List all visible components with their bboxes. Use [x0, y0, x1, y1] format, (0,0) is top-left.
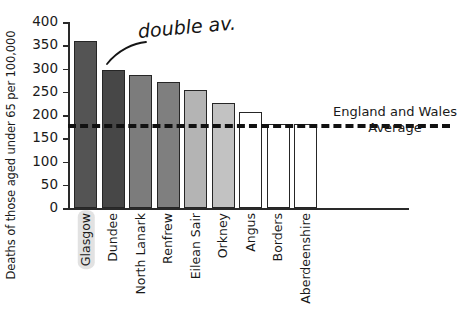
y-axis-tick-label: 250	[32, 85, 58, 99]
y-axis-tick-mark	[63, 92, 68, 94]
average-line-legend: England and Wales Average	[328, 104, 462, 135]
x-axis-label-angus: Angus	[239, 210, 262, 322]
y-axis-tick-mark	[63, 115, 68, 117]
y-axis-tick-label: 350	[32, 39, 58, 53]
y-axis-tick-mark	[63, 69, 68, 71]
bar-eilean-sair[interactable]	[184, 90, 207, 208]
bar-north-lanark[interactable]	[129, 75, 152, 208]
bar-renfrew[interactable]	[157, 82, 180, 208]
x-axis-label-aberdeenshire: Aberdeenshire	[294, 210, 317, 322]
legend-label-line-1: England and Wales	[328, 104, 462, 119]
x-axis-label-dundee: Dundee	[102, 210, 125, 322]
y-axis-tick-label: 100	[32, 155, 58, 169]
y-axis-tick-label: 400	[32, 15, 58, 29]
y-axis-title-text: Deaths of those aged under 65 per 100,00…	[4, 31, 18, 280]
y-axis-tick-label: 150	[32, 132, 58, 146]
y-axis-tick-label: 200	[32, 108, 58, 122]
x-axis-label-text: Borders	[270, 210, 287, 264]
x-axis-label-eilean-sair: Eilean Sair	[184, 210, 207, 322]
x-axis-label-orkney: Orkney	[212, 210, 235, 322]
x-axis-label-text: Dundee	[105, 210, 122, 265]
y-axis-tick-labels: 050100150200250300350400	[22, 14, 64, 210]
x-axis-label-text: Angus	[242, 210, 259, 255]
x-axis-label-text: Glasgow	[77, 210, 94, 269]
bar-aberdeenshire[interactable]	[294, 124, 317, 208]
y-axis-tick-mark	[63, 138, 68, 140]
x-axis-label-text: Eilean Sair	[187, 210, 204, 282]
x-axis-label-borders: Borders	[267, 210, 290, 322]
x-axis-label-renfrew: Renfrew	[157, 210, 180, 322]
x-axis-label-text: North Lanark	[132, 210, 149, 298]
bar-dundee[interactable]	[102, 70, 125, 208]
x-axis-category-labels: GlasgowDundeeNorth LanarkRenfrewEilean S…	[68, 210, 330, 327]
x-axis-label-north-lanark: North Lanark	[129, 210, 152, 322]
y-axis-tick-mark	[63, 162, 68, 164]
x-axis-label-text: Orkney	[215, 210, 232, 261]
bar-orkney[interactable]	[212, 103, 235, 208]
y-axis-tick-label: 0	[49, 201, 58, 215]
y-axis-tick-mark	[63, 185, 68, 187]
y-axis-tick-label: 50	[41, 178, 58, 192]
y-axis-tick-label: 300	[32, 62, 58, 76]
bar-chart: Deaths of those aged under 65 per 100,00…	[0, 0, 463, 327]
x-axis-label-text: Renfrew	[160, 210, 177, 267]
y-axis-title: Deaths of those aged under 65 per 100,00…	[0, 0, 22, 310]
x-axis-label-text: Aberdeenshire	[297, 210, 314, 307]
bar-borders[interactable]	[267, 124, 290, 208]
legend-label-line-2: Average	[328, 120, 462, 135]
y-axis-tick-mark	[63, 45, 68, 47]
x-axis-label-glasgow: Glasgow	[74, 210, 97, 322]
y-axis-tick-mark	[63, 22, 68, 24]
annotation-pointer-arrow-icon	[104, 40, 148, 68]
